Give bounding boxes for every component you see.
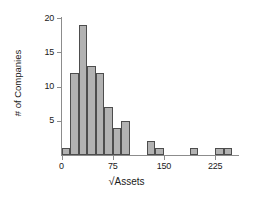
plot-area: 5101520 075150225 √Assets # of Companies	[0, 0, 253, 198]
histogram-figure: 5101520 075150225 √Assets # of Companies	[0, 0, 253, 198]
histogram-bar	[147, 141, 156, 155]
x-axis-line	[61, 155, 239, 156]
histogram-bar	[215, 148, 224, 155]
y-axis-tick	[57, 121, 62, 122]
histogram-bar	[87, 66, 96, 155]
y-axis-tick	[57, 52, 62, 53]
y-axis-tick-label: 20	[44, 14, 54, 23]
y-axis-tick	[57, 87, 62, 88]
histogram-bar	[155, 148, 164, 155]
x-axis-tick	[62, 155, 63, 160]
x-axis-tick-label: 0	[59, 162, 64, 171]
x-axis-tick-label: 225	[208, 162, 222, 171]
histogram-bar	[104, 107, 113, 155]
x-axis-tick	[113, 155, 114, 160]
y-axis-tick-label: 10	[44, 82, 54, 91]
x-axis-tick	[215, 155, 216, 160]
x-axis-title-text: Assets	[115, 176, 145, 187]
histogram-bar	[79, 25, 88, 155]
y-axis-tick-label: 15	[44, 48, 54, 57]
histogram-bar	[62, 148, 71, 155]
histogram-bar	[70, 73, 79, 155]
y-axis-tick-label: 5	[49, 116, 54, 125]
histogram-bar	[96, 73, 105, 155]
y-axis-title: # of Companies	[13, 27, 23, 139]
histogram-bar	[121, 121, 130, 155]
histogram-bar	[113, 128, 122, 155]
y-axis-tick	[57, 18, 62, 19]
histogram-bar	[190, 148, 199, 155]
x-axis-tick	[164, 155, 165, 160]
x-axis-tick-label: 150	[157, 162, 171, 171]
x-axis-title: √Assets	[0, 176, 253, 187]
x-axis-tick-label: 75	[108, 162, 118, 171]
histogram-bar	[224, 148, 233, 155]
